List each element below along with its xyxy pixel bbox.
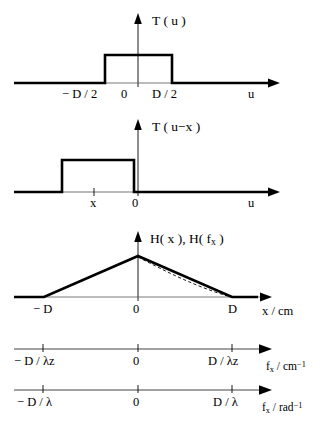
panel-tu-tick-label-zero: 0 [121,88,127,101]
panel-tux-y-axis-arrowhead [134,119,142,130]
panel-tu-tick-label-pos-d-2: D / 2 [152,88,177,101]
panel-tux-tick-label-x: x [90,197,96,210]
panel-tux-tick-label-zero: 0 [132,197,138,210]
panel-fx-rad-tick-label-neg: − D / λ [17,396,52,409]
panel-tux-graphics [14,119,280,196]
panel-fx-rad-axis-label-superscript: −1 [294,401,303,410]
panel-tux-axis-label: u [248,197,254,210]
panel-fx-cm-arrowhead [259,344,272,354]
panel-tu-function-label: T ( u ) [152,14,186,28]
panel-hx-function-label: H( x ), H( fx ) [150,232,224,247]
panel-hx-x-axis-arrowhead [260,293,272,302]
panel-tux-rect-trace [14,160,268,192]
panel-hx-tick-label-pos-d: D [228,303,237,316]
panel-fx-rad-graphics [14,385,272,395]
panel-fx-cm-axis-label-mid: / cm [274,360,297,372]
panel-hx-graphics [14,231,272,301]
panel-tu-x-axis-arrowhead [268,79,280,88]
panel-hx-axis-label: x / cm [262,305,293,318]
panel-fx-cm-tick-label-pos: D / λz [208,355,238,368]
panel-tux-function-label: T ( u−x ) [152,120,200,134]
panel-hx-tick-label-neg-d: − D [33,303,52,316]
panel-hx-tick-label-zero: 0 [133,303,139,316]
panel-tu-tick-label-neg-d-2: − D / 2 [62,88,97,101]
panel-tu-axis-label: u [248,88,254,101]
panel-hx-y-axis-arrowhead [134,231,142,242]
panel-tu-y-axis-arrowhead [134,13,142,24]
panel-fx-rad-tick-label-pos: D / λ [213,396,238,409]
panel-hx-function-label-trail: ) [216,231,224,246]
panel-fx-rad-tick-label-zero: 0 [133,396,139,409]
panel-fx-rad-axis-label-mid: / rad [270,401,294,413]
panel-fx-cm-tick-label-neg: − D / λz [14,355,55,368]
panel-fx-cm-axis-label: fx / cm−1 [266,361,306,375]
figure-root: T ( u ) − D / 2 0 D / 2 u T ( u−x ) x 0 … [0,0,322,431]
panel-fx-cm-tick-label-zero: 0 [133,355,139,368]
panel-tux-x-axis-arrowhead [268,188,280,197]
panel-hx-function-label-lead: H( x ), H( f [150,231,211,246]
panel-tu-rect-trace [14,55,268,83]
panel-tu-graphics [14,13,280,87]
panel-fx-rad-axis-label: fx / rad−1 [262,402,302,416]
panel-fx-rad-arrowhead [259,385,272,395]
panel-fx-cm-axis-label-superscript: −1 [297,360,306,369]
panel-hx-triangle-trace [14,256,258,297]
panel-fx-cm-graphics [14,344,272,354]
